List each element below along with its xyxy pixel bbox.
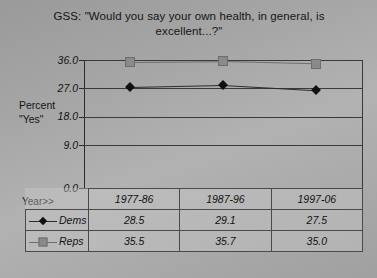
table-header-1987-96: 1987-96 [180,189,271,210]
data-table: 1977-86 1987-96 1997-06 Dems 28.5 29.1 2… [25,188,363,252]
y-axis-line [84,60,85,188]
legend-label-reps: Reps [59,236,84,248]
y-tick-label-27: 27.0 [36,82,78,94]
reps-point-1977-86 [125,57,135,67]
cell-reps-1997-06: 35.0 [271,231,362,252]
table-header-row: 1977-86 1987-96 1997-06 [26,189,363,210]
reps-point-1987-96 [218,56,228,66]
table-header-1997-06: 1997-06 [271,189,362,210]
plot-area [84,60,363,188]
cell-dems-1977-86: 28.5 [88,210,179,231]
reps-point-1997-06 [311,59,321,69]
reps-segment-2 [223,61,316,64]
legend-item-reps: Reps [26,231,89,252]
cell-reps-1987-96: 35.7 [180,231,271,252]
diamond-marker-icon [29,216,57,226]
table-header-1977-86: 1977-86 [88,189,179,210]
dems-point-1997-06 [311,85,321,95]
cell-dems-1987-96: 29.1 [180,210,271,231]
y-tick-label-9: 9.0 [36,139,78,151]
gridline-18 [84,117,363,118]
chart-title-line-2: excellent...?" [30,24,348,39]
cell-reps-1977-86: 35.5 [88,231,179,252]
square-marker-icon [29,237,57,247]
table-row: Reps 35.5 35.7 35.0 [26,231,363,252]
table-corner-cell [26,189,89,210]
legend-item-dems: Dems [26,210,89,231]
gridline-9 [84,145,363,146]
chart-title: GSS: "Would you say your own health, in … [30,9,348,39]
table-row: Dems 28.5 29.1 27.5 [26,210,363,231]
plot-right-border [362,60,363,188]
y-tick-label-18: 18.0 [36,110,78,122]
y-tick-label-36: 36.0 [36,54,78,66]
reps-segment-1 [130,61,223,63]
legend-label-dems: Dems [59,215,86,227]
chart-title-line-1: GSS: "Would you say your own health, in … [30,9,348,24]
dems-point-1977-86 [125,82,135,92]
cell-dems-1997-06: 27.5 [271,210,362,231]
chart-screenshot: GSS: "Would you say your own health, in … [0,0,377,278]
